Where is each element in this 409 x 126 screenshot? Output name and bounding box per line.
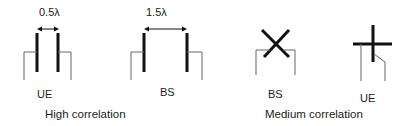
caption-high-correlation: High correlation	[45, 108, 126, 121]
spacing-arrow-icon	[144, 27, 187, 32]
bs-ula-antenna	[131, 27, 202, 81]
ue-xpol-antenna	[353, 25, 392, 81]
ue-label: UE	[37, 88, 52, 100]
spacing-label-bs: 1.5λ	[146, 6, 167, 18]
ue-xpol-label: UE	[360, 92, 375, 104]
spacing-arrow-icon	[37, 27, 59, 32]
spacing-label-ue: 0.5λ	[39, 6, 60, 18]
ue-ula-antenna	[24, 27, 71, 81]
caption-medium-correlation: Medium correlation	[265, 108, 363, 121]
bs-label: BS	[160, 86, 175, 98]
bs-xpol-label: BS	[268, 88, 283, 100]
bs-xpol-antenna	[256, 30, 295, 75]
